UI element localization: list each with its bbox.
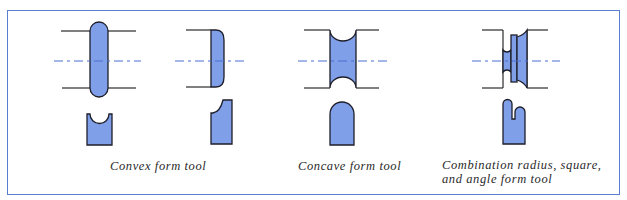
convex-workpiece-full-round	[54, 22, 141, 97]
convex-cutter-corner	[211, 100, 232, 144]
combination-cutter	[503, 100, 525, 145]
caption-combination-line2: and angle form tool	[442, 172, 552, 186]
caption-convex: Convex form tool	[110, 159, 206, 173]
caption-concave: Concave form tool	[298, 159, 401, 173]
convex-cutter-full	[87, 114, 112, 145]
caption-combination-line1: Combination radius, square,	[442, 158, 602, 172]
combination-workpiece	[472, 30, 560, 88]
concave-workpiece	[298, 30, 388, 88]
convex-workpiece-corner-round	[175, 30, 247, 87]
concave-cutter	[330, 102, 354, 145]
